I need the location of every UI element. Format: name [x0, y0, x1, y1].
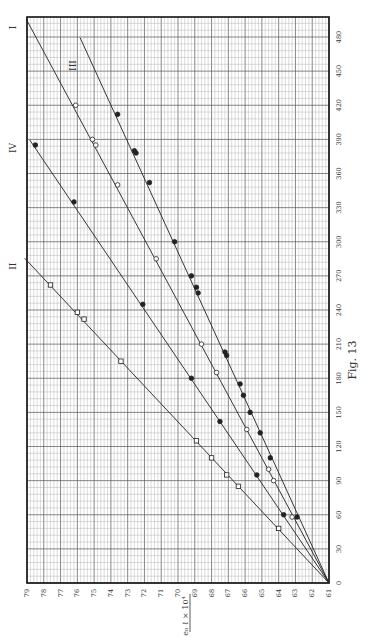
data-point: [223, 350, 228, 355]
y-tick-label: 72: [140, 589, 148, 597]
chart: IIIIIIIV 0306090120150180210240270300330…: [0, 0, 370, 637]
y-tick-label: 74: [107, 589, 115, 597]
data-point: [72, 200, 77, 205]
y-tick-label: 76: [73, 589, 81, 597]
data-point: [33, 143, 38, 148]
x-tick-label: 210: [335, 338, 343, 350]
line-labels: IIIIIIIV: [8, 25, 78, 270]
data-point: [268, 456, 273, 461]
x-tick-label: 270: [335, 270, 343, 282]
y-tick-label: 75: [90, 589, 98, 597]
y-tick-label: 71: [157, 589, 165, 597]
y-axis-ticks: 61626364656667686970717273747576777879: [23, 589, 333, 597]
data-point: [132, 148, 137, 153]
y-tick-label: 79: [23, 589, 31, 597]
data-point: [194, 439, 198, 443]
x-tick-label: 390: [335, 133, 343, 145]
series-label-IV: IV: [8, 142, 18, 153]
series-label-III: III: [68, 60, 78, 71]
data-point: [281, 512, 286, 517]
data-point: [295, 515, 300, 520]
y-tick-label: 68: [208, 589, 216, 597]
data-point: [209, 456, 213, 460]
y-tick-label: 69: [191, 589, 199, 597]
figure-caption: Fig. 13: [346, 340, 359, 379]
y-tick-label: 70: [174, 589, 182, 597]
data-point: [194, 285, 199, 290]
data-point: [258, 431, 263, 436]
data-point: [196, 291, 201, 296]
data-point: [248, 410, 253, 415]
data-point: [199, 342, 204, 347]
data-point: [255, 473, 260, 478]
data-point: [147, 180, 152, 185]
data-point: [271, 478, 276, 483]
data-point: [154, 257, 159, 262]
y-tick-label: 78: [40, 589, 48, 597]
data-point: [115, 112, 120, 117]
data-point: [266, 467, 271, 472]
data-point: [290, 515, 295, 520]
data-point: [244, 427, 249, 432]
data-point: [241, 393, 246, 398]
data-point: [236, 484, 240, 488]
data-point: [73, 103, 78, 108]
x-tick-label: 60: [335, 511, 343, 519]
y-axis-label: e₀ ℓ × 10⁴: [181, 596, 190, 636]
x-tick-label: 180: [335, 372, 343, 384]
x-tick-label: 30: [335, 545, 343, 553]
data-point: [48, 283, 52, 287]
data-point: [172, 239, 177, 244]
data-point: [189, 376, 194, 381]
y-tick-label: 64: [275, 589, 283, 597]
x-tick-label: 150: [335, 406, 343, 418]
series-lines: [25, 19, 329, 583]
series-line-II: [25, 258, 329, 583]
data-point: [238, 382, 243, 387]
x-tick-label: 240: [335, 304, 343, 316]
data-point: [189, 274, 194, 279]
y-tick-label: 65: [258, 589, 266, 597]
series-label-II: II: [8, 262, 18, 270]
x-tick-label: 360: [335, 167, 343, 179]
caption-text: Fig. 13: [346, 340, 359, 379]
x-tick-label: 90: [335, 476, 343, 484]
y-tick-label: 66: [241, 589, 249, 597]
y-tick-label: 67: [224, 589, 232, 597]
data-point: [93, 143, 98, 148]
data-point: [82, 317, 86, 321]
x-tick-label: 480: [335, 31, 343, 43]
data-point: [90, 137, 95, 142]
series-label-I: I: [8, 25, 18, 29]
y-axis-label-text: e₀ ℓ × 10⁴: [181, 596, 190, 636]
data-point: [119, 359, 123, 363]
x-tick-label: 450: [335, 65, 343, 77]
data-point: [75, 310, 79, 314]
y-tick-label: 62: [308, 589, 316, 597]
x-tick-label: 420: [335, 99, 343, 111]
x-tick-label: 120: [335, 440, 343, 452]
y-tick-label: 73: [124, 589, 132, 597]
data-point: [115, 183, 120, 188]
x-axis-ticks: 0306090120150180210240270300330360390420…: [335, 31, 343, 585]
x-tick-label: 300: [335, 236, 343, 248]
y-tick-label: 77: [57, 589, 65, 597]
data-point: [276, 526, 280, 530]
data-point: [218, 419, 223, 424]
data-point: [214, 370, 219, 375]
y-tick-label: 63: [291, 589, 299, 597]
y-tick-label: 61: [325, 589, 333, 597]
data-point: [140, 302, 145, 307]
x-tick-label: 0: [335, 581, 343, 585]
data-point: [224, 473, 228, 477]
x-tick-label: 330: [335, 201, 343, 213]
